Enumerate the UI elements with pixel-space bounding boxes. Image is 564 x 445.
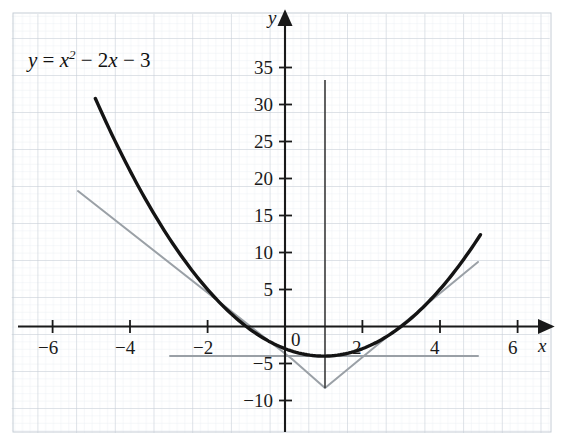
equation-x2: x	[108, 48, 117, 72]
x-axis-label: x	[538, 336, 546, 355]
origin-label: 0	[291, 330, 301, 349]
y-tick-label-35: 35	[237, 58, 273, 77]
y-tick-label-30: 30	[237, 95, 273, 114]
x-tick-label-6: 6	[508, 338, 518, 357]
equation-y: y	[28, 48, 37, 72]
x-tick-label--4: −4	[115, 338, 135, 357]
y-tick-label-10: 10	[237, 243, 273, 262]
x-tick-label--6: −6	[38, 338, 58, 357]
y-tick-label-25: 25	[237, 132, 273, 151]
y-tick-label-5: 5	[237, 280, 273, 299]
equation-label: y = x2 − 2x − 3	[28, 50, 151, 71]
y-tick-label--5: −5	[232, 354, 273, 373]
graph-figure: y = x2 − 2x − 3 −6 −4 −2 2 4 6 35 30 25 …	[0, 0, 564, 445]
x-tick-label--2: −2	[193, 338, 213, 357]
y-axis-label: y	[268, 8, 276, 27]
equation-equals: =	[37, 48, 59, 72]
y-tick-label-20: 20	[237, 169, 273, 188]
x-tick-label-4: 4	[430, 338, 440, 357]
equation-x: x	[60, 48, 69, 72]
y-tick-label--10: −10	[222, 391, 273, 410]
grid-background	[12, 13, 551, 433]
equation-rest: − 2	[76, 48, 109, 72]
equation-tail: − 3	[118, 48, 151, 72]
y-tick-label-15: 15	[237, 206, 273, 225]
x-tick-label-2: 2	[352, 338, 362, 357]
